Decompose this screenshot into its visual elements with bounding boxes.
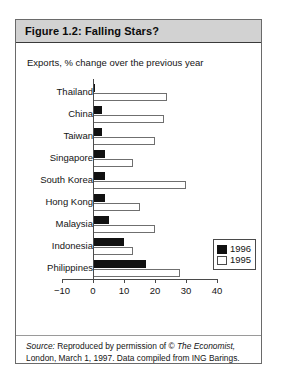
bar-1995 (93, 181, 186, 189)
x-axis-tick (124, 279, 125, 283)
source-text-a: Reproduced by permission of © (55, 341, 177, 351)
category-label: Hong Kong (3, 196, 93, 207)
chart-category-row: Hong Kong (16, 191, 261, 213)
chart-category-row: China (16, 103, 261, 125)
x-axis-tick (93, 279, 94, 283)
x-axis-tick (155, 279, 156, 283)
legend-swatch-1996 (217, 245, 227, 254)
bar-1995 (93, 269, 180, 277)
bar-1996 (93, 238, 124, 246)
figure-body: Exports, % change over the previous year… (16, 43, 261, 363)
x-axis-tick-label: 0 (78, 285, 108, 296)
x-axis-tick (62, 279, 63, 283)
bar-1996 (93, 194, 105, 202)
legend-label-1996: 1996 (230, 244, 251, 254)
category-label: Thailand (3, 86, 93, 97)
zero-axis-line (93, 79, 94, 279)
category-label: China (3, 108, 93, 119)
chart-category-row: Malaysia (16, 213, 261, 235)
source-publication: The Economist, (177, 341, 235, 351)
category-label: Singapore (3, 152, 93, 163)
category-label: Philippines (3, 262, 93, 273)
figure-container: Figure 1.2: Falling Stars? Exports, % ch… (15, 19, 262, 364)
bar-1996 (93, 106, 102, 114)
bar-1995 (93, 137, 155, 145)
chart-category-row: South Korea (16, 169, 261, 191)
page-title: Figure 1.2: Falling Stars? (25, 25, 159, 37)
x-axis-tick-label: −10 (47, 285, 77, 296)
source-note: Source: Reproduced by permission of © Th… (26, 341, 254, 364)
category-label: Malaysia (3, 218, 93, 229)
figure-title-bar: Figure 1.2: Falling Stars? (16, 20, 261, 43)
chart-subtitle: Exports, % change over the previous year (27, 57, 203, 68)
bar-1995 (93, 203, 140, 211)
chart-legend: 1996 1995 (213, 239, 256, 270)
x-axis-tick-label: 10 (109, 285, 139, 296)
x-axis-line (62, 279, 217, 280)
chart-category-row: Taiwan (16, 125, 261, 147)
source-text-b: London, March 1, 1997. Data compiled fro… (26, 353, 240, 363)
legend-swatch-1995 (217, 256, 227, 265)
bar-1996 (93, 260, 146, 268)
legend-item: 1995 (217, 255, 251, 265)
x-axis-tick-label: 30 (171, 285, 201, 296)
bar-1995 (93, 93, 167, 101)
bar-1996 (93, 128, 102, 136)
bar-1995 (93, 225, 155, 233)
source-prefix: Source: (26, 341, 55, 351)
bar-1996 (93, 172, 105, 180)
category-label: South Korea (3, 174, 93, 185)
bar-1995 (93, 159, 133, 167)
bar-1995 (93, 115, 164, 123)
source-divider (16, 335, 261, 336)
legend-label-1995: 1995 (230, 255, 251, 265)
category-label: Taiwan (3, 130, 93, 141)
bar-1996 (93, 150, 105, 158)
category-label: Indonesia (3, 240, 93, 251)
bar-1996 (93, 216, 109, 224)
x-axis-tick-label: 20 (140, 285, 170, 296)
chart-category-row: Singapore (16, 147, 261, 169)
x-axis-tick (186, 279, 187, 283)
x-axis-tick-label: 40 (202, 285, 232, 296)
bar-1995 (93, 247, 133, 255)
legend-item: 1996 (217, 244, 251, 254)
chart-category-row: Thailand (16, 81, 261, 103)
x-axis-tick (217, 279, 218, 283)
